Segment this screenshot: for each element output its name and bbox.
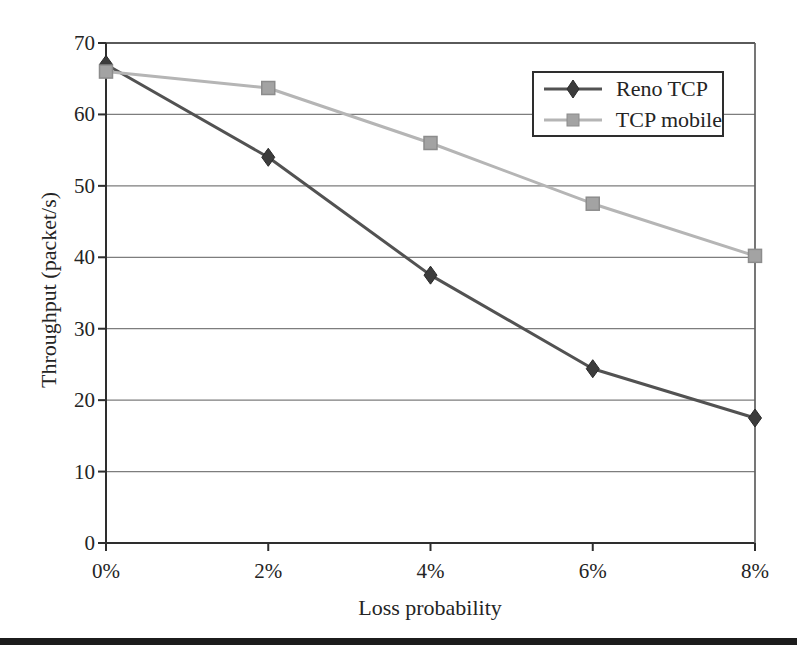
y-tick-label: 0 xyxy=(85,531,96,555)
bottom-rule xyxy=(0,638,797,645)
diamond-legend-marker-icon xyxy=(542,78,604,100)
y-axis-title: Throughput (packet/s) xyxy=(36,192,62,388)
y-tick-label: 10 xyxy=(74,460,95,484)
reno-tcp-marker xyxy=(424,266,437,284)
y-tick-label: 70 xyxy=(74,31,95,55)
legend: Reno TCPTCP mobile xyxy=(532,71,724,137)
figure: 0102030405060700%2%4%6%8% Throughput (pa… xyxy=(0,0,797,659)
legend-label: Reno TCP xyxy=(616,76,708,102)
x-axis-title: Loss probability xyxy=(358,595,502,621)
y-tick-label: 40 xyxy=(74,245,95,269)
reno-tcp-marker xyxy=(749,409,762,427)
square-legend-marker-icon xyxy=(542,109,604,131)
y-tick-label: 20 xyxy=(74,388,95,412)
y-tick-label: 50 xyxy=(74,174,95,198)
tcp-mobile-marker xyxy=(749,249,762,262)
tcp-mobile-marker xyxy=(424,137,437,150)
tcp-mobile-marker xyxy=(262,82,275,95)
y-tick-label: 30 xyxy=(74,317,95,341)
x-tick-label: 6% xyxy=(579,559,607,583)
x-tick-label: 8% xyxy=(741,559,769,583)
legend-item-tcp-mobile: TCP mobile xyxy=(542,104,722,135)
tcp-mobile-marker xyxy=(586,197,599,210)
legend-label: TCP mobile xyxy=(616,107,722,133)
y-tick-label: 60 xyxy=(74,102,95,126)
x-tick-label: 0% xyxy=(92,559,120,583)
legend-item-reno-tcp: Reno TCP xyxy=(542,73,722,104)
tcp-mobile-marker xyxy=(100,65,113,78)
reno-tcp-marker xyxy=(262,148,275,166)
x-tick-label: 4% xyxy=(417,559,445,583)
reno-tcp-marker xyxy=(586,360,599,378)
x-tick-label: 2% xyxy=(254,559,282,583)
